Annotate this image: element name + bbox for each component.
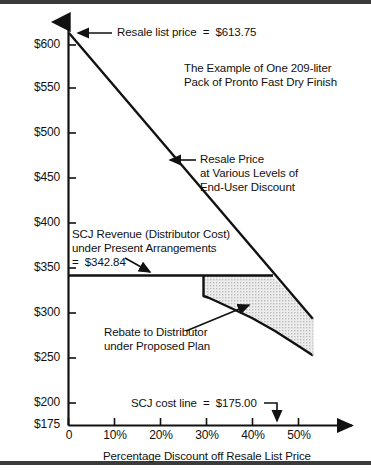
y-tick-label-300: $300 — [8, 306, 60, 319]
x-tick-label-30: 30% — [187, 429, 227, 442]
leader-scj-revenue — [125, 258, 150, 272]
y-tick-label-450: $450 — [8, 171, 60, 184]
annotation-resale-price-line2: at Various Levels of — [200, 167, 298, 180]
x-tick-label-10: 10% — [95, 429, 135, 442]
annotation-scj-revenue-line2: under Present Arrangements — [72, 242, 216, 255]
annotation-rebate-line1: Rebate to Distributor — [104, 326, 207, 339]
chart-figure: $600 $550 $500 $450 $400 $350 $300 $250 … — [0, 0, 371, 471]
x-tick-label-40: 40% — [233, 429, 273, 442]
y-tick-label-550: $550 — [8, 81, 60, 94]
annotation-resale-price-line1: Resale Price — [200, 153, 264, 166]
annotation-rebate-line2: under Proposed Plan — [104, 340, 210, 353]
x-tick-label-50: 50% — [279, 429, 319, 442]
x-tick-label-20: 20% — [141, 429, 181, 442]
annotation-example-line2: Pack of Pronto Fast Dry Finish — [184, 76, 337, 89]
y-tick-label-250: $250 — [8, 351, 60, 364]
annotation-scj-revenue-line3: = $342.84 — [72, 256, 126, 269]
annotation-scj-revenue-line1: SCJ Revenue (Distributor Cost) — [72, 228, 230, 241]
y-tick-label-500: $500 — [8, 126, 60, 139]
x-tick-marks — [69, 418, 299, 426]
y-tick-label-200: $200 — [8, 396, 60, 409]
y-tick-marks — [69, 45, 77, 403]
annotation-scj-cost-line: SCJ cost line = $175.00 — [131, 397, 257, 410]
annotation-resale-list-price: Resale list price = $613.75 — [117, 26, 256, 39]
y-tick-label-350: $350 — [8, 261, 60, 274]
leader-scj-cost-line — [264, 403, 277, 421]
x-tick-label-0: 0 — [49, 429, 89, 442]
annotation-example-line1: The Example of One 209-liter — [184, 62, 331, 75]
x-axis-title: Percentage Discount off Resale List Pric… — [103, 450, 311, 463]
y-tick-label-600: $600 — [8, 38, 60, 51]
y-tick-label-400: $400 — [8, 216, 60, 229]
annotation-resale-price-line3: End-User Discount — [200, 181, 295, 194]
